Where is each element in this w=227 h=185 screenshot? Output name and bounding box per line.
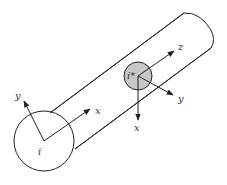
frame-i-origin-label: i — [38, 146, 41, 157]
frame-i-x-label: x — [95, 105, 101, 116]
cylinder-upper-edge-visible — [50, 13, 184, 113]
cylinder-frames-diagram: x y i z y x i* — [0, 0, 227, 185]
frame-istar-origin-label: i* — [127, 70, 135, 81]
frame-istar-y-label: y — [177, 93, 184, 104]
frame-istar-z-label: z — [177, 41, 184, 52]
frame-istar-x-label: x — [134, 122, 140, 133]
cylinder-far-cap — [184, 13, 214, 48]
frame-i-y-label: y — [14, 90, 21, 101]
